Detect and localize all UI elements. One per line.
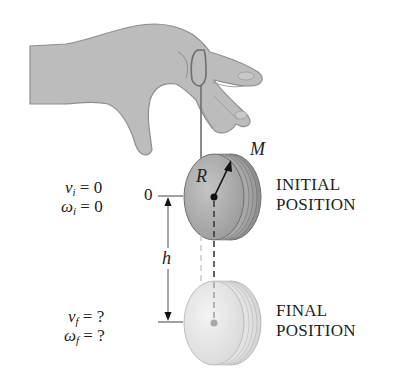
center-dot-final <box>211 320 218 327</box>
equals-sign: = <box>83 326 93 345</box>
zero-mark-label: 0 <box>144 185 153 205</box>
arrow-up-icon <box>165 197 172 206</box>
initial-position-line2: POSITION <box>276 195 356 215</box>
arrow-down-icon <box>165 312 172 321</box>
radius-label: R <box>196 166 207 187</box>
omega-symbol: ω <box>61 197 73 216</box>
v-value: 0 <box>94 178 103 197</box>
omega-value: 0 <box>94 197 103 216</box>
equals-sign: = <box>80 178 90 197</box>
final-position-line1: FINAL <box>276 301 356 321</box>
height-label: h <box>161 248 172 269</box>
final-position-line2: POSITION <box>276 321 356 341</box>
initial-position-line1: INITIAL <box>276 175 356 195</box>
final-angular-velocity: ωf = ? <box>64 326 105 350</box>
v-value: ? <box>97 307 105 326</box>
omega-subscript: f <box>76 334 79 346</box>
initial-position-label: INITIAL POSITION <box>276 175 356 215</box>
omega-subscript: i <box>73 205 76 217</box>
v-symbol: v <box>65 178 73 197</box>
hand-icon <box>30 24 262 155</box>
mass-label: M <box>250 139 265 160</box>
yoyo-final <box>184 281 261 365</box>
final-position-label: FINAL POSITION <box>276 301 356 341</box>
omega-symbol: ω <box>64 326 76 345</box>
hand-illustration <box>30 24 262 155</box>
omega-value: ? <box>97 326 105 345</box>
equals-sign: = <box>80 197 90 216</box>
v-symbol: v <box>68 307 76 326</box>
center-dot-initial <box>211 194 218 201</box>
fingernail <box>238 72 254 80</box>
fingernail <box>235 111 247 119</box>
equals-sign: = <box>83 307 93 326</box>
initial-angular-velocity: ωi = 0 <box>61 197 103 221</box>
